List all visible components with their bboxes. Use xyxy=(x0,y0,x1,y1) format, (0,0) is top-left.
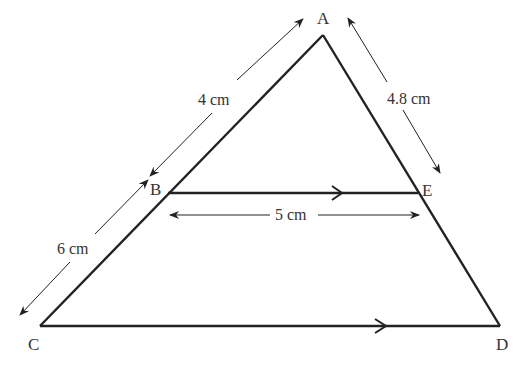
dimension-lines xyxy=(20,18,440,315)
dim-ab-upper xyxy=(237,19,303,80)
dim-ae-upper xyxy=(348,18,387,82)
parallel-marks xyxy=(332,186,386,333)
side-ad xyxy=(323,35,500,326)
dim-bc-lower xyxy=(20,262,70,315)
side-ac xyxy=(40,35,323,326)
measurement-be: 5 cm xyxy=(275,206,307,223)
vertex-label-e: E xyxy=(422,181,432,200)
dim-ae-lower xyxy=(403,110,440,173)
dim-ab-lower xyxy=(150,113,212,176)
vertex-label-c: C xyxy=(28,335,39,354)
vertex-label-a: A xyxy=(317,9,330,28)
vertex-label-d: D xyxy=(496,335,508,354)
measurement-ab: 4 cm xyxy=(198,91,230,108)
measurement-ae: 4.8 cm xyxy=(387,90,431,107)
vertex-label-b: B xyxy=(150,180,161,199)
triangle-diagram: A B E C D 4 cm 6 cm 4.8 cm 5 cm xyxy=(0,0,529,373)
measurement-bc: 6 cm xyxy=(57,240,89,257)
dim-bc-upper xyxy=(95,180,148,234)
